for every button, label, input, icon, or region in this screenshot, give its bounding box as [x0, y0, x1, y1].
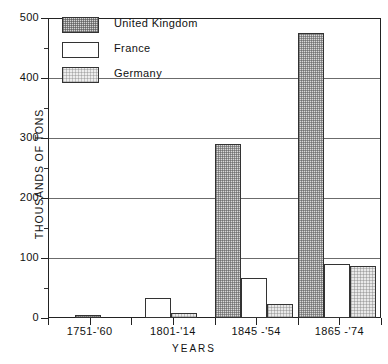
x-tick-label: 1751-'60: [44, 325, 136, 337]
x-tick-label: 1801-'14: [127, 325, 219, 337]
bar-france-2: [241, 278, 267, 318]
y-tick-major: [41, 18, 48, 19]
y-tick-major: [41, 258, 48, 259]
bars-layer: [48, 18, 381, 318]
y-tick-label: 500: [0, 11, 39, 23]
x-tick: [339, 318, 340, 325]
x-tick: [48, 318, 49, 325]
x-axis-title: YEARS: [0, 343, 388, 354]
bar-france-1: [145, 298, 171, 318]
x-tick-label: 1845 -'54: [210, 325, 302, 337]
y-tick-label: 300: [0, 131, 39, 143]
y-tick-label: 200: [0, 191, 39, 203]
bar-germany-3: [350, 266, 376, 318]
y-tick-major: [41, 78, 48, 79]
bar-uk-2: [215, 144, 241, 318]
legend-swatch-icon-germany: [62, 67, 99, 83]
x-tick: [381, 318, 382, 325]
y-tick-major: [41, 198, 48, 199]
y-axis-title: THOUSANDS OF TONS: [33, 84, 45, 264]
y-tick-major: [41, 318, 48, 319]
x-tick: [90, 318, 91, 325]
x-tick: [215, 318, 216, 325]
legend-swatch-icon-united-kingdom: [62, 17, 99, 33]
y-tick-label: 0: [0, 311, 39, 323]
x-tick-label: 1865 -'74: [293, 325, 385, 337]
bar-france-3: [324, 264, 350, 318]
legend-label-germany: Germany: [114, 67, 162, 79]
legend-swatch-icon-france: [62, 42, 99, 58]
bar-germany-1: [171, 313, 197, 318]
legend-label-france: France: [114, 42, 151, 54]
x-tick: [256, 318, 257, 325]
y-tick-label: 100: [0, 251, 39, 263]
bar-uk-0: [75, 315, 101, 318]
y-tick-major: [41, 138, 48, 139]
bar-germany-2: [267, 304, 293, 318]
bar-chart: THOUSANDS OF TONS 0100200300400500 1751-…: [0, 0, 388, 364]
bar-uk-3: [298, 33, 324, 318]
y-tick-label: 400: [0, 71, 39, 83]
x-tick: [173, 318, 174, 325]
x-tick: [298, 318, 299, 325]
legend-label-united-kingdom: United Kingdom: [114, 17, 198, 29]
x-tick: [131, 318, 132, 325]
